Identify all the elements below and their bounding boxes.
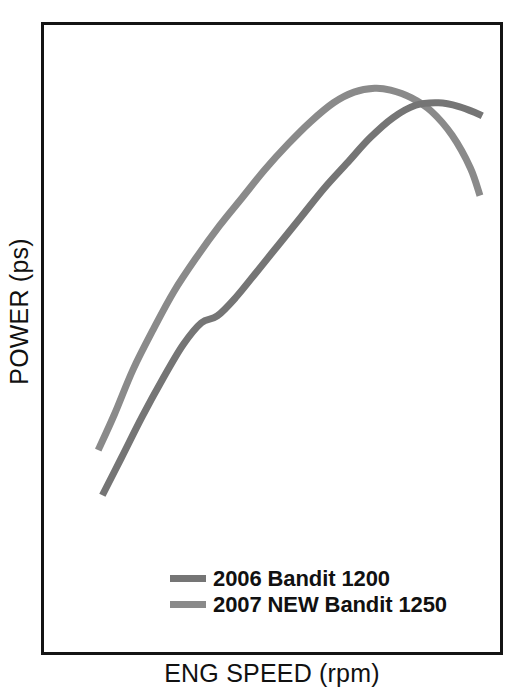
legend-label-2007: 2007 NEW Bandit 1250 <box>213 594 447 616</box>
plot-area <box>41 22 503 655</box>
y-axis-label: POWER (ps) <box>0 0 38 679</box>
legend-swatch-2006-icon <box>170 575 206 582</box>
legend-swatch-2007-icon <box>170 601 206 608</box>
y-axis-label-text: POWER (ps) <box>5 238 34 384</box>
legend: 2006 Bandit 1200 2007 NEW Bandit 1250 <box>170 566 480 618</box>
legend-item-2006: 2006 Bandit 1200 <box>170 566 480 591</box>
legend-label-2006: 2006 Bandit 1200 <box>213 568 390 590</box>
x-axis-label: ENG SPEED (rpm) <box>41 659 503 688</box>
legend-item-2007: 2007 NEW Bandit 1250 <box>170 592 480 617</box>
